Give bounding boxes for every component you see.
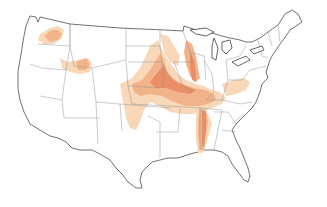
us-map — [0, 0, 327, 207]
